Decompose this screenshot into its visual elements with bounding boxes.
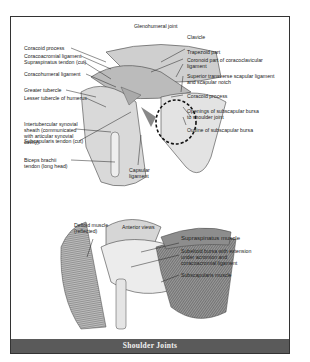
title-bar: Shoulder Joints [11,339,289,353]
label-greater-tubercle: Greater tubercle [24,87,61,93]
label-subscapularis-muscle: Subscapularis muscle [181,272,231,278]
label-clavicle: Clavicle [187,34,205,40]
label-outline-subscapular-bursa: Outline of subscapular bursa [187,127,253,133]
label-coronoid-part: Coronoid part of coracoclavicular ligame… [187,57,277,69]
label-coracoid-process-right: Coracoid process [187,93,227,99]
label-superior-transverse-scapular: Superior transverse scapular ligament an… [187,73,277,85]
label-capsular-ligament: Capsular ligament [129,167,159,179]
diagram-frame: Coracoid process Coracoacromial ligament… [10,16,290,354]
label-supraspinatus-muscle: Supraspinatus muscle [181,235,240,241]
label-coracohumeral-ligament: Coracohumeral ligament [24,71,81,77]
label-coracoid-process-left: Coracoid process [24,45,64,51]
label-glenohumeral-joint: Glenohumeral joint [134,23,178,29]
label-subdeltoid-bursa: Subeltoid bursa with extension under acr… [181,248,261,266]
label-anterior-views: Anterior views [122,224,155,230]
label-deltoid-muscle: Deltoid muscle (reflected) [74,222,119,234]
label-lesser-tubercle: Lesser tubercle of humerus [24,95,87,101]
label-subcapularis-tendon: Subcapularis tendon (cut) [24,138,83,144]
label-supraspinatus-tendon: Supraspinatus tendon (cut) [24,59,86,65]
label-trapezoid-part: Trapezoid part [187,49,220,55]
label-openings-subscapular-bursa: Openings of subscapular bursa to shoulde… [187,108,262,120]
label-biceps-brachii-tendon: Biceps brachii tendon (long head) [24,157,70,169]
